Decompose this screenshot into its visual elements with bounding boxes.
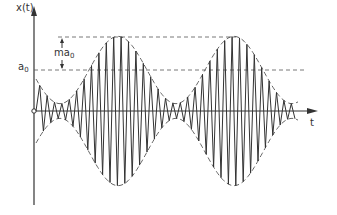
am-signal-diagram xyxy=(0,0,337,215)
a0-label: a0 xyxy=(18,62,29,74)
t-axis-label: t xyxy=(310,118,314,128)
origin-marker xyxy=(32,109,36,113)
y-axis-label: x(t) xyxy=(16,3,34,13)
t-axis-arrow-icon xyxy=(307,108,318,114)
arrow-up-icon xyxy=(60,38,64,43)
arrow-down-icon xyxy=(60,64,64,69)
modulation-depth-label: ma0 xyxy=(54,48,74,60)
